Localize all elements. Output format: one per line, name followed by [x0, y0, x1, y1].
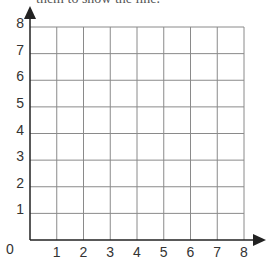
y-axis-arrow-icon: [24, 6, 36, 19]
x-tick-label: 1: [53, 244, 61, 260]
axis-labels: 0 1234567812345678: [6, 15, 248, 260]
x-tick-label: 5: [160, 244, 168, 260]
origin-label: 0: [6, 241, 14, 257]
y-tick-label: 5: [16, 95, 24, 111]
y-tick-label: 4: [16, 122, 24, 138]
x-tick-label: 8: [240, 244, 248, 260]
y-tick-label: 8: [16, 15, 24, 31]
y-tick-label: 1: [16, 201, 24, 217]
x-tick-label: 4: [133, 244, 141, 260]
x-tick-label: 2: [80, 244, 88, 260]
y-tick-label: 2: [16, 175, 24, 191]
gridlines: [30, 27, 244, 240]
coordinate-grid: 0 1234567812345678: [0, 0, 274, 272]
x-tick-label: 7: [213, 244, 221, 260]
y-tick-label: 6: [16, 68, 24, 84]
axes: [24, 6, 266, 246]
y-tick-label: 7: [16, 42, 24, 58]
x-tick-label: 3: [106, 244, 114, 260]
x-axis-arrow-icon: [253, 234, 266, 246]
x-tick-label: 6: [187, 244, 195, 260]
y-tick-label: 3: [16, 148, 24, 164]
